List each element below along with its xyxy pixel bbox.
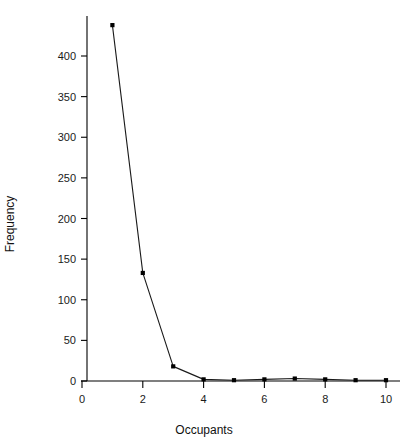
data-point-marker	[293, 376, 297, 380]
y-axis-tick-label: 250	[48, 172, 76, 184]
data-point-marker	[141, 271, 145, 275]
data-point-marker	[323, 377, 327, 381]
y-axis-tick-label: 0	[48, 375, 76, 387]
x-axis-title: Occupants	[175, 423, 232, 437]
data-point-marker	[232, 378, 236, 382]
y-axis-tick-label: 300	[48, 131, 76, 143]
data-series-frequency	[110, 23, 388, 382]
axes	[81, 16, 400, 381]
y-axis-tick-label: 150	[48, 253, 76, 265]
data-point-marker	[262, 377, 266, 381]
x-axis-tick-label: 8	[322, 393, 328, 405]
y-axis-title: Frequency	[3, 196, 17, 253]
y-axis-ticks	[81, 56, 87, 381]
chart-figure: 050100150200250300350400 0246810 Occupan…	[0, 0, 408, 448]
x-axis-tick-label: 6	[261, 393, 267, 405]
x-axis-tick-label: 10	[380, 393, 392, 405]
data-point-marker	[202, 377, 206, 381]
data-point-marker	[354, 378, 358, 382]
data-point-marker	[171, 364, 175, 368]
x-axis-tick-label: 4	[201, 393, 207, 405]
y-axis-tick-label: 200	[48, 213, 76, 225]
series-line	[112, 25, 386, 380]
x-axis-tick-label: 0	[79, 393, 85, 405]
data-point-marker	[110, 23, 114, 27]
y-axis-tick-label: 50	[48, 334, 76, 346]
y-axis-tick-label: 400	[48, 50, 76, 62]
y-axis-tick-label: 350	[48, 91, 76, 103]
data-point-marker	[384, 378, 388, 382]
x-axis-tick-label: 2	[140, 393, 146, 405]
y-axis-tick-label: 100	[48, 294, 76, 306]
series-markers	[110, 23, 388, 382]
